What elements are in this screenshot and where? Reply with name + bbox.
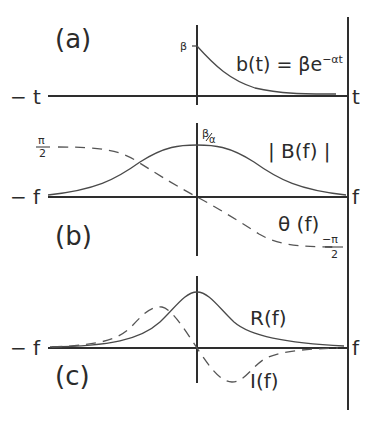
panel-label-c: (c) xyxy=(55,361,90,391)
panel-label-a: (a) xyxy=(55,24,91,54)
axis-label-t: t xyxy=(352,85,360,109)
panel-b: (b) − f f β α | B(f) | θ (f) π 2 −π 2 xyxy=(10,123,360,261)
axis-label-neg-f-c: − f xyxy=(10,336,41,360)
axis-label-f-b: f xyxy=(352,185,360,209)
peak-label-alpha: α xyxy=(209,134,216,145)
panel-label-b: (b) xyxy=(55,221,92,251)
real-part-label: R(f) xyxy=(250,306,287,330)
fourier-transform-diagram: (a) − t t β b(t) = βe−αt (b) − f f β α |… xyxy=(0,0,380,421)
axis-label-neg-t: − t xyxy=(10,85,41,109)
magnitude-label: | B(f) | xyxy=(268,139,331,163)
phase-label: θ (f) xyxy=(278,212,319,236)
panel-a: (a) − t t β b(t) = βe−αt xyxy=(10,24,360,109)
phase-top-den: 2 xyxy=(39,147,46,160)
phase-top-num: π xyxy=(38,134,45,147)
axis-label-neg-f-b: − f xyxy=(10,185,41,209)
imag-part-label: I(f) xyxy=(250,369,279,393)
axis-label-f-c: f xyxy=(352,336,360,360)
phase-bottom-den: 2 xyxy=(331,248,338,261)
beta-tick-label: β xyxy=(180,40,187,53)
phase-bottom-num: −π xyxy=(322,233,338,246)
panel-c: (c) − f f R(f) I(f) xyxy=(10,276,360,393)
equation-label: b(t) = βe−αt xyxy=(236,53,344,75)
